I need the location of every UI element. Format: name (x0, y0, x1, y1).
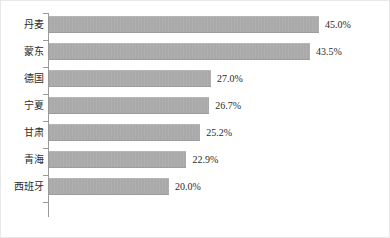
bar[interactable] (49, 16, 319, 33)
bar[interactable] (49, 151, 186, 168)
bar-value-label: 25.2% (200, 124, 232, 141)
bar-row[interactable]: 蒙东43.5% (1, 43, 390, 70)
plot-area: 丹麦45.0%蒙东43.5%德国27.0%宁夏26.7%甘肃25.2%青海22.… (1, 1, 390, 238)
bar[interactable] (49, 97, 209, 114)
category-label: 宁夏 (0, 97, 48, 114)
category-label: 蒙东 (0, 43, 48, 60)
category-label: 西班牙 (0, 178, 48, 195)
bar-track (49, 16, 319, 33)
bar-value-label: 22.9% (186, 151, 218, 168)
category-label: 德国 (0, 70, 48, 87)
bar-track (49, 124, 200, 141)
bar[interactable] (49, 178, 169, 195)
bar-row[interactable]: 丹麦45.0% (1, 16, 390, 43)
bar-row[interactable]: 西班牙20.0% (1, 178, 390, 205)
bar-row[interactable]: 青海22.9% (1, 151, 390, 178)
bar-track (49, 151, 186, 168)
category-label: 丹麦 (0, 16, 48, 33)
category-label: 青海 (0, 151, 48, 168)
bar[interactable] (49, 43, 310, 60)
bar-value-label: 26.7% (209, 97, 241, 114)
bar-track (49, 97, 209, 114)
bar-value-label: 43.5% (310, 43, 342, 60)
bar-row[interactable]: 宁夏26.7% (1, 97, 390, 124)
bar[interactable] (49, 70, 211, 87)
bar-track (49, 70, 211, 87)
category-label: 甘肃 (0, 124, 48, 141)
bar-value-label: 45.0% (319, 16, 351, 33)
axis-tick (43, 13, 48, 14)
bar[interactable] (49, 124, 200, 141)
bar-track (49, 43, 310, 60)
bar-row[interactable]: 甘肃25.2% (1, 124, 390, 151)
bar-chart-figure: 丹麦45.0%蒙东43.5%德国27.0%宁夏26.7%甘肃25.2%青海22.… (0, 0, 390, 238)
bar-value-label: 27.0% (211, 70, 243, 87)
bar-row[interactable]: 德国27.0% (1, 70, 390, 97)
bar-value-label: 20.0% (169, 178, 201, 195)
bar-track (49, 178, 169, 195)
